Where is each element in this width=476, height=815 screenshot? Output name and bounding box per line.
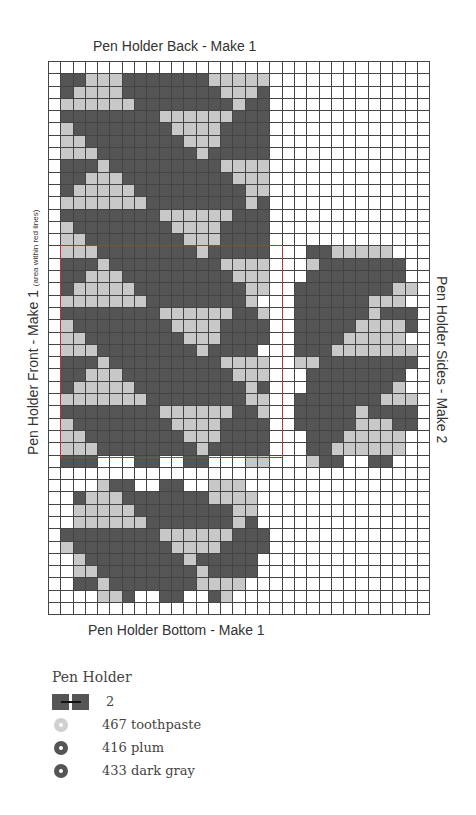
- grid-cell: [135, 320, 147, 332]
- grid-cell: [110, 468, 122, 480]
- grid-cell: [49, 480, 61, 492]
- grid-cell: [49, 578, 61, 590]
- grid-cell: [320, 308, 332, 320]
- grid-cell: [246, 308, 258, 320]
- grid-cell: [381, 234, 393, 246]
- grid-cell: [295, 443, 307, 455]
- grid-cell: [98, 99, 110, 111]
- grid-cell: [295, 345, 307, 357]
- grid-cell: [160, 492, 172, 504]
- grid-cell: [418, 173, 430, 185]
- grid-cell: [332, 99, 344, 111]
- grid-cell: [320, 74, 332, 86]
- grid-cell: [381, 222, 393, 234]
- grid-cell: [209, 578, 221, 590]
- grid-cell: [197, 456, 209, 468]
- grid-cell: [233, 554, 245, 566]
- grid-cell: [49, 197, 61, 209]
- grid-cell: [233, 369, 245, 381]
- grid-cell: [356, 87, 368, 99]
- legend-item-toothpaste: 467 toothpaste: [52, 713, 201, 736]
- grid-cell: [221, 517, 233, 529]
- grid-cell: [320, 357, 332, 369]
- grid-cell: [172, 517, 184, 529]
- grid-cell: [61, 406, 73, 418]
- grid-cell: [307, 296, 319, 308]
- grid-cell: [406, 74, 418, 86]
- grid-cell: [110, 603, 122, 615]
- grid-cell: [221, 296, 233, 308]
- grid-cell: [283, 210, 295, 222]
- grid-cell: [86, 333, 98, 345]
- grid-cell: [332, 123, 344, 135]
- grid-cell: [369, 443, 381, 455]
- grid-cell: [258, 443, 270, 455]
- grid-cell: [172, 320, 184, 332]
- grid-cell: [332, 554, 344, 566]
- grid-cell: [258, 369, 270, 381]
- grid-cell: [295, 505, 307, 517]
- grid-cell: [221, 136, 233, 148]
- grid-cell: [295, 234, 307, 246]
- grid-cell: [98, 136, 110, 148]
- grid-cell: [344, 148, 356, 160]
- grid-cell: [258, 320, 270, 332]
- grid-cell: [184, 394, 196, 406]
- grid-cell: [233, 173, 245, 185]
- grid-cell: [258, 74, 270, 86]
- grid-cell: [332, 62, 344, 74]
- grid-cell: [270, 419, 282, 431]
- grid-cell: [356, 148, 368, 160]
- grid-cell: [418, 234, 430, 246]
- grid-cell: [307, 148, 319, 160]
- grid-cell: [258, 382, 270, 394]
- grid-cell: [307, 394, 319, 406]
- grid-cell: [86, 566, 98, 578]
- grid-cell: [110, 591, 122, 603]
- grid-cell: [74, 443, 86, 455]
- grid-cell: [344, 505, 356, 517]
- grid-cell: [320, 185, 332, 197]
- grid-cell: [283, 271, 295, 283]
- grid-cell: [246, 357, 258, 369]
- grid-cell: [197, 320, 209, 332]
- grid-cell: [123, 456, 135, 468]
- grid-cell: [258, 173, 270, 185]
- grid-cell: [344, 603, 356, 615]
- grid-cell: [74, 529, 86, 541]
- grid-cell: [123, 369, 135, 381]
- grid-cell: [258, 603, 270, 615]
- grid-cell: [344, 160, 356, 172]
- grid-cell: [406, 222, 418, 234]
- grid-cell: [283, 357, 295, 369]
- grid-cell: [86, 210, 98, 222]
- grid-cell: [356, 345, 368, 357]
- grid-cell: [418, 578, 430, 590]
- grid-cell: [246, 148, 258, 160]
- grid-cell: [135, 123, 147, 135]
- grid-cell: [356, 443, 368, 455]
- grid-cell: [209, 197, 221, 209]
- grid-cell: [320, 517, 332, 529]
- grid-cell: [356, 62, 368, 74]
- grid-cell: [135, 578, 147, 590]
- grid-cell: [74, 468, 86, 480]
- grid-cell: [246, 296, 258, 308]
- grid-cell: [246, 333, 258, 345]
- grid-cell: [49, 87, 61, 99]
- grid-cell: [160, 566, 172, 578]
- grid-cell: [393, 308, 405, 320]
- grid-cell: [123, 578, 135, 590]
- grid-cell: [418, 369, 430, 381]
- grid-cell: [381, 505, 393, 517]
- grid-cell: [98, 542, 110, 554]
- grid-cell: [74, 480, 86, 492]
- grid-cell: [98, 296, 110, 308]
- grid-cell: [221, 111, 233, 123]
- grid-cell: [98, 123, 110, 135]
- grid-cell: [369, 431, 381, 443]
- grid-cell: [332, 443, 344, 455]
- legend-item-stitch: 2: [52, 690, 201, 713]
- grid-cell: [197, 148, 209, 160]
- grid-cell: [209, 456, 221, 468]
